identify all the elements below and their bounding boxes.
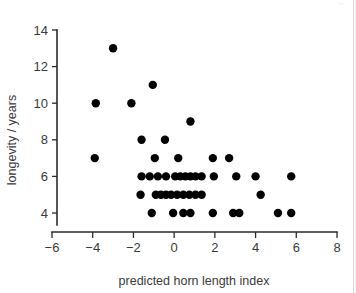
data-point xyxy=(161,136,169,144)
x-tick-label: 8 xyxy=(333,240,340,255)
y-tick-label: 8 xyxy=(41,132,48,147)
data-point xyxy=(287,209,295,217)
data-points xyxy=(91,44,296,217)
data-point xyxy=(174,154,182,162)
x-tick-label: 6 xyxy=(293,240,300,255)
data-point xyxy=(232,172,240,180)
x-tick-label: −2 xyxy=(126,240,141,255)
data-point xyxy=(186,209,194,217)
x-tick-label: 4 xyxy=(252,240,259,255)
y-tick-label: 14 xyxy=(34,23,48,38)
data-point xyxy=(251,172,259,180)
x-tick-label: 2 xyxy=(211,240,218,255)
data-point xyxy=(154,172,162,180)
data-point xyxy=(169,209,177,217)
data-point xyxy=(209,154,217,162)
data-point xyxy=(186,117,194,125)
data-point xyxy=(146,172,154,180)
data-point xyxy=(149,81,157,89)
page-edge-line xyxy=(353,0,354,293)
data-point xyxy=(235,209,243,217)
data-point xyxy=(92,99,100,107)
x-axis: −6−4−202468 xyxy=(45,232,341,255)
data-point xyxy=(256,191,264,199)
plot-canvas: 468101214 −6−4−202468 predicted horn len… xyxy=(0,0,356,293)
data-point xyxy=(109,44,117,52)
data-point xyxy=(162,172,170,180)
data-point xyxy=(197,172,205,180)
data-point xyxy=(274,209,282,217)
y-tick-label: 10 xyxy=(34,96,48,111)
data-point xyxy=(197,191,205,199)
y-tick-label: 6 xyxy=(41,169,48,184)
x-axis-title: predicted horn length index xyxy=(119,274,271,288)
data-point xyxy=(210,172,218,180)
data-point xyxy=(91,154,99,162)
scatter-plot-figure: '' 468101214 −6−4−202468 predicted horn … xyxy=(0,0,356,293)
y-tick-label: 12 xyxy=(34,59,48,74)
data-point xyxy=(225,154,233,162)
data-point xyxy=(127,99,135,107)
x-tick-label: −4 xyxy=(85,240,100,255)
data-point xyxy=(209,209,217,217)
data-point xyxy=(136,191,144,199)
data-point xyxy=(148,209,156,217)
data-point xyxy=(137,172,145,180)
x-tick-label: 0 xyxy=(171,240,178,255)
data-point xyxy=(287,172,295,180)
y-axis-title: longevity / years xyxy=(5,95,19,185)
page-corner-mark: '' xyxy=(339,2,344,9)
data-point xyxy=(137,136,145,144)
y-axis: 468101214 xyxy=(34,23,57,226)
x-tick-label: −6 xyxy=(45,240,60,255)
y-tick-label: 4 xyxy=(41,206,48,221)
data-point xyxy=(151,154,159,162)
